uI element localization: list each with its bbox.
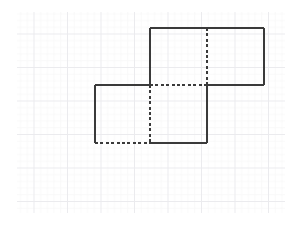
grid-area bbox=[17, 12, 285, 213]
geometry-diagram bbox=[0, 0, 300, 225]
figure-canvas bbox=[0, 0, 300, 225]
grid-group bbox=[17, 12, 285, 213]
